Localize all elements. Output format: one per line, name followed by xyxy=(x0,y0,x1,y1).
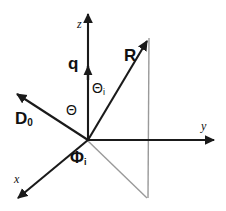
angle-label-phi-i-text: Φ xyxy=(70,148,84,167)
vector-label-r: R xyxy=(124,47,136,64)
angle-label-theta-text: Θ xyxy=(66,102,77,118)
vector-label-r-text: R xyxy=(124,46,136,65)
axis-label-y: y xyxy=(201,120,206,132)
projection-line-vertical xyxy=(148,38,149,198)
vector-label-q: q xyxy=(68,55,78,72)
vector-label-d0-text: D xyxy=(15,109,27,128)
angle-label-phi-i-subscript: i xyxy=(84,157,87,167)
diagram-canvas xyxy=(0,0,226,211)
angle-label-theta-i: Θi xyxy=(92,81,105,97)
angle-label-theta-i-text: Θ xyxy=(92,80,103,96)
geometry-diagram: z y x q R D0 Θi Θ Φi xyxy=(0,0,226,211)
vector-label-d0-subscript: 0 xyxy=(27,117,33,128)
axis-label-x: x xyxy=(14,173,19,185)
projection-lines xyxy=(88,38,149,198)
angle-label-phi-i: Φi xyxy=(70,149,86,167)
vector-label-q-text: q xyxy=(68,54,78,73)
angle-label-theta-i-subscript: i xyxy=(103,87,105,97)
angle-label-theta: Θ xyxy=(66,103,77,117)
projection-line-in-plane xyxy=(88,141,147,198)
axis-label-z: z xyxy=(77,18,82,30)
vector-label-d0: D0 xyxy=(15,110,33,128)
